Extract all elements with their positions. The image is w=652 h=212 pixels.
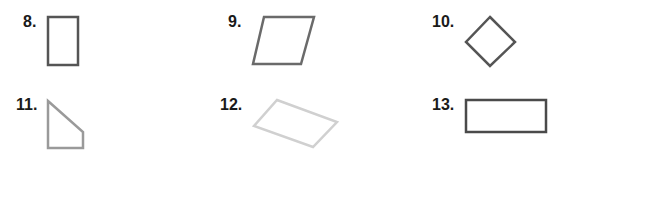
shape-12-parallelogram <box>254 100 337 147</box>
shapes-canvas <box>0 0 652 212</box>
shape-10-rhombus <box>466 17 515 66</box>
shape-11-quadrilateral <box>48 101 83 148</box>
shape-13-rectangle <box>466 100 546 132</box>
shape-9-parallelogram <box>253 17 314 64</box>
shape-8-rectangle <box>48 17 78 65</box>
